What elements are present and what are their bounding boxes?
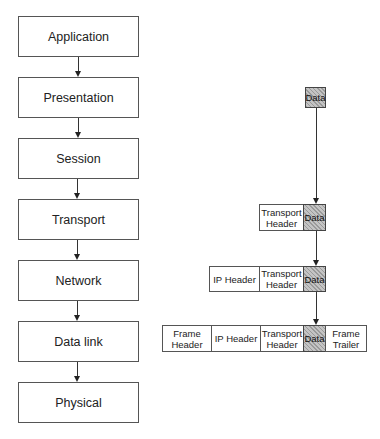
- layer-network: Network: [18, 260, 139, 301]
- layer-transport: Transport: [18, 199, 139, 240]
- arrow-line: [316, 231, 317, 260]
- transport-header-label: Transport Header: [260, 268, 303, 290]
- frame-header-label: Frame Header: [163, 328, 211, 350]
- arrow-line: [78, 118, 79, 132]
- ip-header-label: IP Header: [213, 274, 256, 285]
- layer-session: Session: [18, 138, 139, 179]
- layer-label: Transport: [52, 213, 105, 227]
- layer-data-link: Data link: [18, 321, 139, 362]
- data-block: Data: [303, 266, 326, 292]
- data-label: Data: [304, 274, 324, 285]
- arrow-line: [77, 362, 78, 376]
- transport-header-label: Transport Header: [260, 207, 303, 229]
- layer-label: Data link: [54, 335, 103, 349]
- layer-presentation: Presentation: [18, 77, 139, 118]
- arrow-line: [77, 301, 78, 315]
- transport-header-label: Transport Header: [261, 328, 303, 350]
- data-block: Data: [303, 204, 326, 231]
- data-label: Data: [305, 92, 325, 103]
- data-label: Data: [304, 212, 324, 223]
- ip-header-label: IP Header: [215, 333, 258, 344]
- layer-label: Physical: [55, 396, 102, 410]
- layer-label: Network: [56, 274, 102, 288]
- arrow-line: [316, 108, 317, 198]
- data-block: Data: [303, 325, 326, 352]
- frame-header-cell: Frame Header: [162, 325, 212, 352]
- arrow-line: [77, 179, 78, 193]
- ip-header-cell: IP Header: [211, 325, 261, 352]
- layer-application: Application: [18, 16, 139, 57]
- data-label: Data: [304, 333, 324, 344]
- layer-physical: Physical: [18, 382, 139, 423]
- transport-header-cell: Transport Header: [260, 325, 304, 352]
- arrow-line: [316, 292, 317, 319]
- layer-label: Application: [48, 30, 109, 44]
- layer-label: Presentation: [43, 91, 113, 105]
- ip-header-cell: IP Header: [209, 266, 260, 292]
- transport-header-cell: Transport Header: [259, 266, 304, 292]
- arrow-line: [78, 57, 79, 71]
- transport-header-cell: Transport Header: [259, 204, 304, 231]
- data-block: Data: [305, 87, 326, 108]
- frame-trailer-cell: Frame Trailer: [325, 325, 367, 352]
- frame-trailer-label: Frame Trailer: [326, 328, 366, 350]
- arrow-line: [77, 240, 78, 254]
- layer-label: Session: [56, 152, 100, 166]
